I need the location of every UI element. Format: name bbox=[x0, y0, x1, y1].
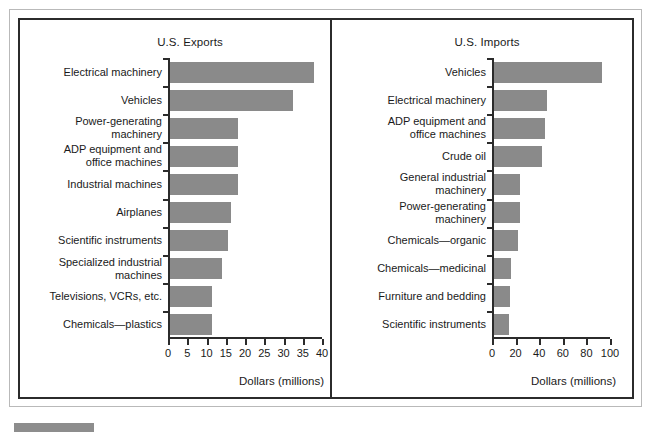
x-axis-tick-label: 80 bbox=[580, 347, 592, 359]
y-axis-tick bbox=[163, 86, 169, 88]
x-axis-tick-label: 15 bbox=[220, 347, 232, 359]
x-axis-tick bbox=[563, 339, 565, 345]
y-axis-tick bbox=[163, 170, 169, 172]
bar-track bbox=[492, 227, 610, 255]
y-axis-tick bbox=[487, 58, 493, 60]
bar bbox=[492, 62, 602, 83]
bar-track bbox=[492, 114, 610, 142]
bar-track bbox=[168, 114, 322, 142]
figure-outer-border: U.S. Exports Electrical machineryVehicle… bbox=[9, 9, 642, 407]
bar-track bbox=[168, 198, 322, 226]
bar-category-label: ADP equipment and office machines bbox=[352, 115, 492, 141]
x-axis-tick bbox=[303, 339, 305, 345]
bar bbox=[168, 202, 231, 223]
x-axis-tick-label: 60 bbox=[557, 347, 569, 359]
x-axis-exports: 0510152025303540 bbox=[168, 337, 322, 339]
x-axis-tick bbox=[264, 339, 266, 345]
page-footer-marker bbox=[14, 423, 94, 432]
bar-row: Scientific instruments bbox=[352, 311, 610, 339]
y-axis-tick bbox=[487, 170, 493, 172]
y-axis-imports bbox=[492, 58, 494, 339]
bar-track bbox=[492, 255, 610, 283]
y-axis-tick bbox=[487, 142, 493, 144]
x-axis-tick bbox=[322, 339, 324, 345]
bar bbox=[492, 146, 542, 167]
plot-area-exports: Electrical machineryVehiclesPower-genera… bbox=[38, 58, 322, 339]
bar-category-label: Electrical machinery bbox=[352, 94, 492, 107]
bar-category-label: Scientific instruments bbox=[352, 318, 492, 331]
bar-category-label: ADP equipment and office machines bbox=[38, 143, 168, 169]
y-axis-tick bbox=[487, 255, 493, 257]
bar-row: Vehicles bbox=[352, 58, 610, 86]
y-axis-tick bbox=[163, 227, 169, 229]
bar-track bbox=[168, 170, 322, 198]
x-axis-tick-label: 40 bbox=[533, 347, 545, 359]
bar-category-label: Chemicals—organic bbox=[352, 234, 492, 247]
bar bbox=[492, 286, 510, 307]
bar bbox=[492, 202, 520, 223]
bar bbox=[492, 90, 547, 111]
bar bbox=[492, 230, 518, 251]
bar-row: Televisions, VCRs, etc. bbox=[38, 283, 322, 311]
bar-category-label: Vehicles bbox=[352, 66, 492, 79]
y-axis-tick bbox=[163, 311, 169, 313]
x-axis-tick bbox=[187, 339, 189, 345]
x-axis-tick bbox=[226, 339, 228, 345]
y-axis-tick bbox=[163, 58, 169, 60]
y-axis-tick bbox=[163, 114, 169, 116]
bar-track bbox=[168, 86, 322, 114]
x-axis-tick-label: 20 bbox=[239, 347, 251, 359]
bar bbox=[168, 286, 212, 307]
bar-track bbox=[492, 198, 610, 226]
bar bbox=[168, 62, 314, 83]
x-axis-imports: 020406080100 bbox=[492, 337, 610, 339]
bar-track bbox=[492, 86, 610, 114]
bar bbox=[492, 314, 509, 335]
x-axis-tick bbox=[492, 339, 494, 345]
bar-track bbox=[168, 142, 322, 170]
bar-category-label: General industrial machinery bbox=[352, 171, 492, 197]
y-axis-tick bbox=[487, 227, 493, 229]
figure-inner-frame: U.S. Exports Electrical machineryVehicle… bbox=[18, 18, 634, 399]
bar-row: Electrical machinery bbox=[352, 86, 610, 114]
bar-category-label: Chemicals—medicinal bbox=[352, 262, 492, 275]
bar-category-label: Scientific instruments bbox=[38, 234, 168, 247]
x-axis-label-imports: Dollars (millions) bbox=[531, 375, 616, 387]
y-axis-tick bbox=[163, 142, 169, 144]
bar-rows-imports: VehiclesElectrical machineryADP equipmen… bbox=[352, 58, 610, 339]
bar-track bbox=[492, 58, 610, 86]
bar bbox=[168, 258, 222, 279]
bar-category-label: Televisions, VCRs, etc. bbox=[38, 290, 168, 303]
bar-category-label: Vehicles bbox=[38, 94, 168, 107]
bar-row: Chemicals—medicinal bbox=[352, 255, 610, 283]
y-axis-exports bbox=[168, 58, 170, 339]
chart-panel-exports: U.S. Exports Electrical machineryVehicle… bbox=[20, 20, 330, 397]
bar-category-label: Furniture and bedding bbox=[352, 290, 492, 303]
x-axis-tick-label: 40 bbox=[316, 347, 328, 359]
y-axis-tick bbox=[487, 311, 493, 313]
bar-row: Crude oil bbox=[352, 142, 610, 170]
chart-title-exports: U.S. Exports bbox=[20, 36, 330, 48]
bar-category-label: Chemicals—plastics bbox=[38, 318, 168, 331]
bar-track bbox=[492, 170, 610, 198]
chart-panel-imports: U.S. Imports VehiclesElectrical machiner… bbox=[332, 20, 632, 397]
bar-track bbox=[168, 227, 322, 255]
y-axis-tick bbox=[163, 283, 169, 285]
bar-row: Chemicals—organic bbox=[352, 227, 610, 255]
plot-area-imports: VehiclesElectrical machineryADP equipmen… bbox=[352, 58, 610, 339]
bar bbox=[492, 118, 545, 139]
bar-category-label: Power-generating machinery bbox=[352, 200, 492, 226]
x-axis-tick bbox=[245, 339, 247, 345]
bar bbox=[168, 118, 238, 139]
y-axis-tick bbox=[487, 86, 493, 88]
bar-row: General industrial machinery bbox=[352, 170, 610, 198]
x-axis-tick bbox=[539, 339, 541, 345]
x-axis-tick bbox=[610, 339, 612, 345]
bar bbox=[168, 314, 212, 335]
bar-track bbox=[168, 311, 322, 339]
bar bbox=[492, 174, 520, 195]
bar-track bbox=[492, 142, 610, 170]
x-axis-tick-label: 100 bbox=[601, 347, 619, 359]
bar-row: Vehicles bbox=[38, 86, 322, 114]
bar-track bbox=[168, 255, 322, 283]
